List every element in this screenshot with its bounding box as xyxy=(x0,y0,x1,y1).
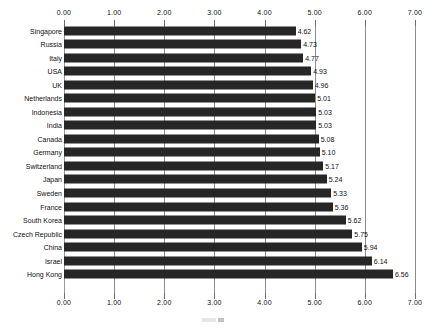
x-tickmark-bottom-0 xyxy=(64,293,65,299)
bar xyxy=(64,243,362,252)
category-label: Canada xyxy=(37,135,62,142)
bar xyxy=(64,107,316,116)
bar-row: Russia4.73 xyxy=(0,38,433,52)
bar-row: South Korea5.62 xyxy=(0,213,433,227)
bar-value-label: 4.62 xyxy=(296,27,312,34)
bar-row: UK4.96 xyxy=(0,78,433,92)
bar-chart: 0.001.002.003.004.005.006.007.00 Singapo… xyxy=(0,0,433,329)
bar-value-label: 5.03 xyxy=(316,108,332,115)
x-tick-label-bottom-5: 5.00 xyxy=(307,299,321,306)
category-label: France xyxy=(40,203,62,210)
category-label: India xyxy=(47,122,62,129)
bar xyxy=(64,67,311,76)
category-label: UK xyxy=(52,81,62,88)
bar-row: Singapore4.62 xyxy=(0,24,433,38)
x-tick-label-bottom-3: 3.00 xyxy=(207,299,221,306)
x-tickmark-bottom-2 xyxy=(164,293,165,299)
x-tick-label-bottom-0: 0.00 xyxy=(57,299,71,306)
category-label: Russia xyxy=(41,41,62,48)
bar xyxy=(64,175,327,184)
x-tick-label-bottom-7: 7.00 xyxy=(408,299,422,306)
category-label: Hong Kong xyxy=(27,271,62,278)
bar-value-label: 4.96 xyxy=(313,81,329,88)
bar xyxy=(64,256,372,265)
category-label: Czech Republic xyxy=(13,230,62,237)
bar-value-label: 5.94 xyxy=(362,244,378,251)
bar-value-label: 5.08 xyxy=(319,135,335,142)
bar xyxy=(64,161,323,170)
bar-value-label: 6.56 xyxy=(393,271,409,278)
x-axis-bottom: 0.001.002.003.004.005.006.007.00 xyxy=(0,299,433,311)
bar xyxy=(64,53,303,62)
bar-row: France5.36 xyxy=(0,200,433,214)
footer-artifact xyxy=(202,318,224,322)
bar-value-label: 5.17 xyxy=(323,162,339,169)
x-tick-label-bottom-2: 2.00 xyxy=(157,299,171,306)
bar-row: Canada5.08 xyxy=(0,132,433,146)
category-label: Israel xyxy=(45,257,62,264)
x-tickmark-bottom-1 xyxy=(114,293,115,299)
bar-row: Sweden5.33 xyxy=(0,186,433,200)
x-tickmark-bottom-6 xyxy=(365,293,366,299)
bar xyxy=(64,26,296,35)
bar-value-label: 5.01 xyxy=(315,95,331,102)
x-tick-label-top-5: 5.00 xyxy=(307,9,321,16)
category-label: Sweden xyxy=(37,189,62,196)
category-label: Germany xyxy=(33,149,62,156)
category-label: South Korea xyxy=(23,217,62,224)
bar-row: Indonesia5.03 xyxy=(0,105,433,119)
x-tickmark-bottom-5 xyxy=(315,293,316,299)
x-tick-label-top-4: 4.00 xyxy=(257,9,271,16)
bar-row: Japan5.24 xyxy=(0,173,433,187)
bar-row: Czech Republic5.75 xyxy=(0,227,433,241)
category-label: Switzerland xyxy=(26,162,62,169)
bar-row: USA4.93 xyxy=(0,65,433,79)
x-tick-label-bottom-4: 4.00 xyxy=(257,299,271,306)
bar-row: India5.03 xyxy=(0,119,433,133)
x-tick-label-top-1: 1.00 xyxy=(107,9,121,16)
bar-row: Germany5.10 xyxy=(0,146,433,160)
category-label: Singapore xyxy=(30,27,62,34)
bar xyxy=(64,270,393,279)
category-label: USA xyxy=(48,68,62,75)
x-tickmark-bottom-4 xyxy=(265,293,266,299)
category-label: Italy xyxy=(49,54,62,61)
bar xyxy=(64,121,316,130)
bar-row: Switzerland5.17 xyxy=(0,159,433,173)
category-label: Netherlands xyxy=(24,95,62,102)
bar xyxy=(64,94,315,103)
bar-value-label: 5.62 xyxy=(346,217,362,224)
x-tick-label-top-7: 7.00 xyxy=(408,9,422,16)
bar-value-label: 5.75 xyxy=(352,230,368,237)
x-tick-label-top-2: 2.00 xyxy=(157,9,171,16)
bar-value-label: 4.77 xyxy=(303,54,319,61)
bar-value-label: 6.14 xyxy=(372,257,388,264)
bar-value-label: 5.03 xyxy=(316,122,332,129)
category-label: China xyxy=(44,244,62,251)
bar-row: Israel6.14 xyxy=(0,254,433,268)
x-tickmark-bottom-7 xyxy=(415,293,416,299)
bar-row: Italy4.77 xyxy=(0,51,433,65)
bar xyxy=(64,148,320,157)
bar-value-label: 5.10 xyxy=(320,149,336,156)
bar-value-label: 4.73 xyxy=(301,41,317,48)
bar-row: Hong Kong6.56 xyxy=(0,267,433,281)
bar-value-label: 5.33 xyxy=(331,189,347,196)
bar-row: China5.94 xyxy=(0,240,433,254)
x-tick-label-bottom-1: 1.00 xyxy=(107,299,121,306)
bar-value-label: 4.93 xyxy=(311,68,327,75)
x-tick-label-bottom-6: 6.00 xyxy=(358,299,372,306)
category-label: Indonesia xyxy=(32,108,62,115)
bar xyxy=(64,216,346,225)
category-label: Japan xyxy=(43,176,62,183)
bar xyxy=(64,80,313,89)
bar xyxy=(64,134,319,143)
x-tick-label-top-0: 0.00 xyxy=(57,9,71,16)
bar xyxy=(64,202,333,211)
bar-row: Netherlands5.01 xyxy=(0,92,433,106)
bar xyxy=(64,40,301,49)
bar xyxy=(64,229,352,238)
x-tickmark-bottom-3 xyxy=(214,293,215,299)
bar xyxy=(64,188,331,197)
bar-value-label: 5.24 xyxy=(327,176,343,183)
